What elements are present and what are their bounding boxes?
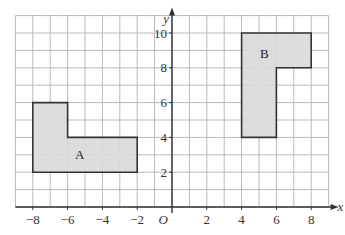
y-tick-label: 10 — [154, 26, 167, 41]
x-axis-label: x — [337, 199, 344, 214]
y-axis-arrow-icon — [169, 8, 175, 16]
x-tick-label: −4 — [95, 212, 109, 227]
shape-label-b: B — [260, 46, 269, 61]
x-tick-label: −8 — [26, 212, 40, 227]
coordinate-grid-diagram: AB −8−6−4−22468246810Oxy — [0, 0, 345, 235]
x-tick-label: −2 — [130, 212, 144, 227]
x-tick-label: 8 — [308, 212, 315, 227]
y-axis-label: y — [161, 11, 169, 26]
x-tick-label: 2 — [204, 212, 211, 227]
x-tick-label: −6 — [61, 212, 75, 227]
origin-label: O — [159, 212, 169, 227]
x-tick-label: 6 — [273, 212, 280, 227]
shape-label-a: A — [75, 147, 85, 162]
y-tick-label: 6 — [161, 95, 168, 110]
x-tick-label: 4 — [238, 212, 245, 227]
y-tick-label: 4 — [161, 130, 168, 145]
y-tick-label: 2 — [161, 165, 168, 180]
y-tick-label: 8 — [161, 60, 168, 75]
